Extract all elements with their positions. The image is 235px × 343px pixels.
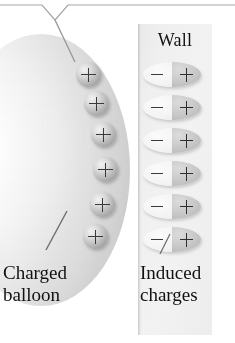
plus-icon	[172, 227, 201, 252]
balloon-charge	[93, 157, 118, 182]
balloon-caption-line2: balloon	[3, 284, 123, 306]
induced-dipole	[143, 128, 201, 153]
induced-caption-line2: charges	[140, 284, 235, 306]
plus-icon	[89, 103, 104, 104]
minus-icon	[143, 128, 172, 153]
induced-caption-line1: Induced	[140, 262, 235, 284]
plus-icon	[95, 204, 110, 205]
top-bracket-leader-icon	[0, 5, 235, 20]
induced-dipole	[143, 62, 201, 87]
induced-caption: Induced charges	[140, 262, 235, 306]
minus-icon	[143, 161, 172, 186]
wall-label: Wall	[138, 30, 212, 51]
plus-icon	[96, 134, 111, 135]
plus-icon	[172, 95, 201, 120]
minus-icon	[143, 95, 172, 120]
induced-dipole	[143, 227, 201, 252]
induced-dipole	[143, 161, 201, 186]
plus-icon	[88, 236, 103, 237]
figure-canvas: Wall	[0, 0, 235, 343]
balloon-charge	[90, 192, 115, 217]
minus-icon	[143, 62, 172, 87]
plus-icon	[172, 62, 201, 87]
plus-icon	[81, 74, 96, 75]
plus-icon	[172, 161, 201, 186]
minus-icon	[143, 194, 172, 219]
balloon-charge	[91, 122, 116, 147]
plus-icon	[98, 169, 113, 170]
induced-dipole	[143, 95, 201, 120]
plus-icon	[172, 194, 201, 219]
induced-dipole	[143, 194, 201, 219]
balloon-charge	[84, 91, 109, 116]
balloon-charge	[83, 224, 108, 249]
balloon-caption-line1: Charged	[3, 262, 123, 284]
plus-icon	[172, 128, 201, 153]
balloon-charge	[76, 62, 101, 87]
balloon-caption: Charged balloon	[3, 262, 123, 306]
minus-icon	[143, 227, 172, 252]
